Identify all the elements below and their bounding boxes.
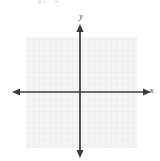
y-axis-bottom-arrowhead <box>76 150 83 158</box>
coordinate-plane-figure: y x <box>0 0 160 161</box>
x-axis-label: x <box>150 87 160 95</box>
coordinate-plane-svg <box>0 0 160 161</box>
top-edge-artifact <box>38 1 59 4</box>
x-axis-left-arrowhead <box>12 88 20 95</box>
y-axis-label: y <box>76 13 86 21</box>
y-axis-top-arrowhead <box>76 24 83 32</box>
